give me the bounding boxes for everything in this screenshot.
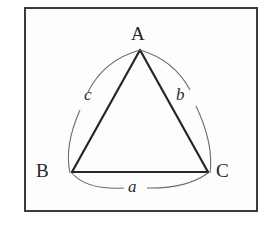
- side-c-arc-upper: [88, 50, 140, 92]
- side-label-a: a: [128, 178, 137, 195]
- side-a-arc-right: [147, 173, 208, 188]
- vertex-label-b: B: [36, 161, 49, 180]
- side-label-b: b: [176, 86, 185, 103]
- side-label-c: c: [84, 86, 92, 103]
- vertex-label-c: C: [216, 161, 229, 180]
- side-b-arc-upper: [140, 50, 190, 90]
- side-c-arc-lower: [68, 110, 80, 173]
- diagram-canvas: A B C a b c: [0, 0, 268, 228]
- side-a-arc-left: [72, 173, 124, 188]
- vertex-label-a: A: [131, 24, 145, 43]
